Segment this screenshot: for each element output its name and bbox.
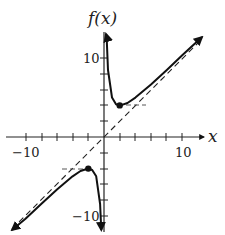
curve-right-branch — [107, 36, 202, 106]
x-axis-label: x — [208, 126, 218, 146]
y-tick-label-10: 10 — [83, 51, 100, 66]
y-axis-label: f(x) — [86, 8, 117, 28]
local-min-point — [117, 102, 123, 108]
y-tick-label-neg10: −10 — [72, 209, 99, 224]
x-tick-label-10: 10 — [175, 145, 192, 160]
local-max-point — [85, 165, 91, 171]
function-graph: f(x) x −10 10 10 −10 — [0, 0, 225, 235]
asymptote-line — [12, 42, 199, 229]
x-tick-label-neg10: −10 — [12, 145, 39, 160]
